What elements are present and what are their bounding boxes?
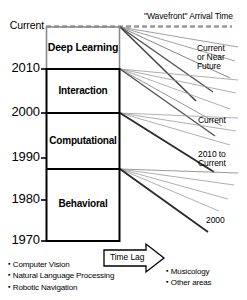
arrival-line-future: Future xyxy=(197,62,225,71)
arrival-label-2010-to-current: 2010 to Current xyxy=(198,150,226,168)
arrival-label-current-or-near-future: Current or Near Future xyxy=(197,44,225,71)
era-label-behavioral: Behavioral xyxy=(46,199,120,210)
left-bullet-item: Computer Vision xyxy=(8,259,114,270)
axis-label-current: Current xyxy=(0,20,44,31)
axis-label-1980: 1980 xyxy=(0,192,40,206)
ray-fan-interaction xyxy=(120,69,238,136)
arrival-label-current: Current xyxy=(198,116,226,125)
era-label-interaction: Interaction xyxy=(46,86,120,97)
right-bullet-item: Other areas xyxy=(166,277,211,288)
axis-label-1970: 1970 xyxy=(0,233,40,247)
right-bullet-item: Musicology xyxy=(166,266,211,277)
left-bullet-item: Natural Language Processing xyxy=(8,270,114,281)
arrival-line-current-2: Current xyxy=(198,159,226,168)
right-bullet-list: Musicology Other areas xyxy=(166,266,211,289)
left-bullet-list: Computer Vision Natural Language Process… xyxy=(8,259,114,293)
wavefront-arrival-time-title: "Wavefront" Arrival Time xyxy=(144,12,233,21)
time-lag-label: Time Lag xyxy=(110,253,144,262)
axis-label-2010: 2010 xyxy=(0,61,40,75)
wavefront-arrival-time-figure: Current 2010 2000 1990 1980 1970 Deep Le… xyxy=(0,0,247,300)
era-label-deep-learning: Deep Learning xyxy=(46,42,120,53)
era-label-computational: Computational xyxy=(43,136,123,147)
arrival-label-2000: 2000 xyxy=(206,216,225,225)
left-bullet-item: Robotic Navigation xyxy=(8,282,114,293)
axis-label-1990: 1990 xyxy=(0,150,40,164)
axis-label-2000: 2000 xyxy=(0,105,40,119)
